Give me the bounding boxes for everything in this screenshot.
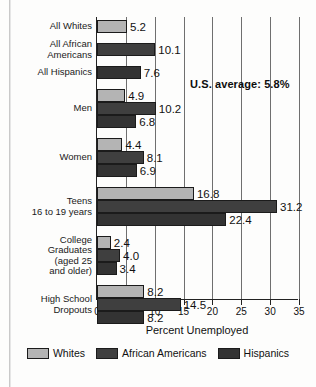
legend-item-hispanics[interactable]: Hispanics: [218, 347, 290, 359]
bar-row: 8.2: [97, 311, 299, 324]
legend-item-whites[interactable]: Whites: [27, 347, 85, 359]
category-label-line: and older): [6, 266, 92, 277]
bar-value-label: 31.2: [277, 201, 302, 213]
bar-value-label: 16.8: [194, 188, 219, 200]
bar-women-hispanics[interactable]: [97, 164, 137, 177]
bar-all-african-americans-african[interactable]: [97, 43, 155, 56]
category-label-line: Men: [6, 103, 92, 114]
bar-high-school-dropouts-hispanics[interactable]: [97, 311, 144, 324]
category-label-all-hispanics: All Hispanics: [6, 67, 92, 78]
bar-value-label: 4.9: [125, 90, 144, 102]
bar-value-label: 7.6: [141, 67, 160, 79]
bar-college-graduates-african[interactable]: [97, 249, 120, 262]
category-label-line: All African: [6, 39, 92, 50]
bar-value-label: 2.4: [111, 237, 130, 249]
category-label-line: 16 to 19 years: [6, 207, 92, 218]
bar-row: 4.0: [97, 249, 299, 262]
bar-value-label: 5.2: [127, 21, 146, 33]
category-label-line: All Whites: [6, 21, 92, 32]
bar-high-school-dropouts-whites[interactable]: [97, 285, 144, 298]
bar-row: 10.1: [97, 43, 299, 56]
legend-swatch-hispanics: [218, 348, 240, 359]
category-label-line: Graduates: [6, 245, 92, 256]
category-label-line: High School: [6, 294, 92, 305]
bar-value-label: 10.1: [155, 44, 180, 56]
bar-all-hispanics-hispanics[interactable]: [97, 66, 141, 79]
category-label-line: Women: [6, 152, 92, 163]
bar-all-whites-whites[interactable]: [97, 20, 127, 33]
legend-label-african: African Americans: [122, 347, 207, 359]
bar-high-school-dropouts-african[interactable]: [97, 298, 181, 311]
bar-value-label: 14.5: [181, 299, 206, 311]
bar-value-label: 6.8: [136, 116, 155, 128]
bar-value-label: 10.2: [156, 103, 181, 115]
bar-college-graduates-hispanics[interactable]: [97, 262, 117, 275]
bar-men-hispanics[interactable]: [97, 115, 136, 128]
category-label-high-school-dropouts: High SchoolDropouts: [6, 294, 92, 315]
bar-row: 22.4: [97, 213, 299, 226]
bar-value-label: 3.4: [117, 263, 136, 275]
bar-teens-16-to-19-years-african[interactable]: [97, 200, 277, 213]
legend-label-whites: Whites: [53, 347, 85, 359]
bar-value-label: 6.9: [137, 165, 156, 177]
bar-teens-16-to-19-years-whites[interactable]: [97, 187, 194, 200]
category-label-women: Women: [6, 152, 92, 163]
category-label-all-whites: All Whites: [6, 21, 92, 32]
bar-men-whites[interactable]: [97, 89, 125, 102]
bar-row: 14.5: [97, 298, 299, 311]
bar-row: 4.9: [97, 89, 299, 102]
bar-value-label: 8.1: [144, 152, 163, 164]
bar-value-label: 8.2: [144, 286, 163, 298]
category-label-all-african-americans: All AfricanAmericans: [6, 39, 92, 60]
x-axis-title: Percent Unemployed: [96, 324, 298, 336]
us-average-annotation: U.S. average: 5.8%: [190, 78, 290, 90]
unemployment-bar-chart: All WhitesAll AfricanAmericansAll Hispan…: [0, 0, 316, 387]
category-label-line: Dropouts: [6, 305, 92, 316]
plot-area: 05101520253035 5.210.17.64.910.26.84.48.…: [96, 17, 298, 300]
bar-row: 3.4: [97, 262, 299, 275]
bar-row: 31.2: [97, 200, 299, 213]
category-label-line: Teens: [6, 196, 92, 207]
bar-row: 16.8: [97, 187, 299, 200]
bar-college-graduates-whites[interactable]: [97, 236, 111, 249]
category-label-college-graduates: CollegeGraduates(aged 25and older): [6, 235, 92, 277]
chart-page: All WhitesAll AfricanAmericansAll Hispan…: [0, 0, 316, 387]
bar-row: 8.2: [97, 285, 299, 298]
tick-mark-35: [299, 299, 300, 305]
bar-row: 5.2: [97, 20, 299, 33]
legend-swatch-whites: [27, 348, 49, 359]
bar-row: 6.9: [97, 164, 299, 177]
category-label-teens-16-to-19-years: Teens16 to 19 years: [6, 196, 92, 217]
bar-row: 6.8: [97, 115, 299, 128]
bar-men-african[interactable]: [97, 102, 156, 115]
category-label-line: Americans: [6, 50, 92, 61]
legend-swatch-african: [96, 348, 118, 359]
legend-item-african[interactable]: African Americans: [96, 347, 207, 359]
category-label-men: Men: [6, 103, 92, 114]
bar-row: 2.4: [97, 236, 299, 249]
bar-value-label: 22.4: [226, 214, 251, 226]
bar-teens-16-to-19-years-hispanics[interactable]: [97, 213, 226, 226]
bar-row: 10.2: [97, 102, 299, 115]
bar-row: 8.1: [97, 151, 299, 164]
bar-women-african[interactable]: [97, 151, 144, 164]
bar-women-whites[interactable]: [97, 138, 122, 151]
legend-label-hispanics: Hispanics: [244, 347, 290, 359]
bar-value-label: 8.2: [144, 312, 163, 324]
gridline-35: [299, 17, 300, 299]
chart-legend: WhitesAfrican AmericansHispanics: [0, 347, 316, 359]
bar-value-label: 4.0: [120, 250, 139, 262]
bar-value-label: 4.4: [122, 139, 141, 151]
bar-row: 4.4: [97, 138, 299, 151]
category-label-line: All Hispanics: [6, 67, 92, 78]
